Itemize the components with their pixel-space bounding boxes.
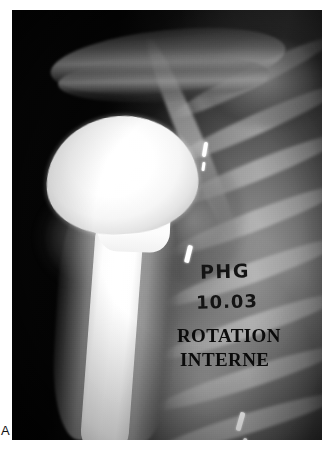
radiograph-image: PHG 10.03 ROTATION INTERNE [12, 10, 322, 440]
figure-panel: PHG 10.03 ROTATION INTERNE A [0, 0, 336, 453]
handwritten-initials: PHG [200, 261, 250, 281]
figure-panel-label: A [1, 424, 10, 437]
view-label-line2: INTERNE [180, 350, 269, 369]
rib-shadow [147, 385, 322, 440]
handwritten-date: 10.03 [196, 292, 258, 312]
clip-lowest-icon [240, 438, 247, 440]
view-label-line1: ROTATION [177, 326, 281, 345]
